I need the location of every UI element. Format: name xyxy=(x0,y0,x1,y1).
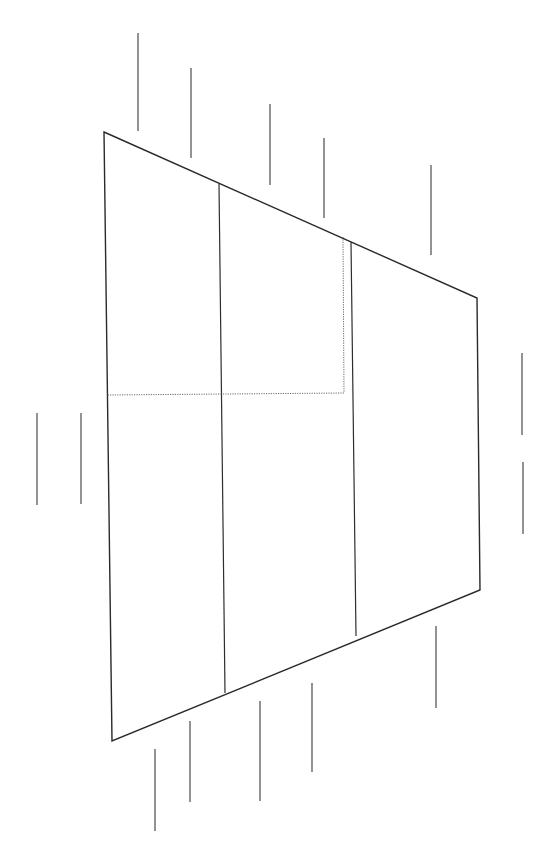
dotted-rectangle xyxy=(107,237,344,395)
dividers-group xyxy=(219,184,356,693)
ticks-group xyxy=(37,33,523,831)
diagram-canvas xyxy=(0,0,556,862)
trapezoid-outline xyxy=(104,132,480,741)
section-divider-1 xyxy=(219,184,225,693)
section-divider-2 xyxy=(351,242,356,636)
